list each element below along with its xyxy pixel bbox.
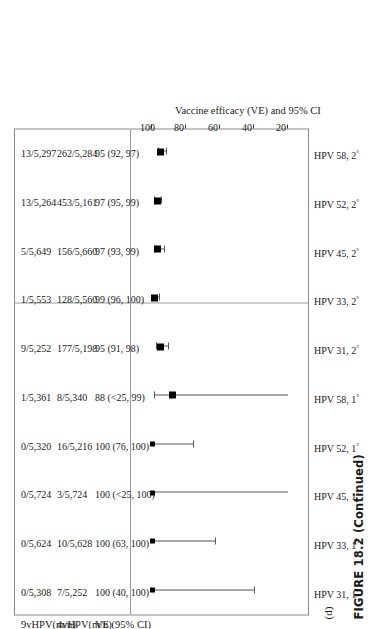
cell-9vhpv: 0/5,320 [21, 440, 51, 451]
x-axis-tick [185, 124, 186, 128]
point-estimate-marker [150, 538, 155, 543]
ci-lower-cap [161, 196, 162, 203]
confidence-interval-line [152, 589, 254, 590]
confidence-interval-line [152, 443, 193, 444]
ci-lower-cap [159, 293, 160, 300]
point-estimate-marker [169, 391, 176, 398]
study-label: HPV 33, 2° [314, 294, 359, 306]
x-axis-tick [219, 124, 220, 128]
study-label: HPV 58, 2° [314, 148, 359, 160]
cell-ve: 95 (91, 98) [95, 342, 139, 353]
study-label: HPV 52, 2° [314, 197, 359, 209]
x-axis-tick [287, 124, 288, 128]
study-label: HPV 31, 1° [314, 587, 359, 599]
point-estimate-marker [157, 148, 164, 155]
study-label: HPV 58, 1° [314, 392, 359, 404]
point-estimate-marker [157, 343, 164, 350]
cell-4vhpv: 262/5,284 [57, 147, 97, 158]
x-axis-tick-label: 100 [140, 121, 155, 132]
cell-4vhpv: 177/5,198 [57, 342, 97, 353]
cell-9vhpv: 5/5,649 [21, 245, 51, 256]
point-estimate-marker [154, 245, 161, 252]
ci-lower-cap [166, 147, 167, 154]
forest-plot-band [130, 129, 308, 614]
cell-9vhpv: 9/5,252 [21, 342, 51, 353]
x-axis-tick [253, 124, 254, 128]
cell-9vhpv: 0/5,624 [21, 537, 51, 548]
cell-9vhpv: 13/5,264 [21, 196, 56, 207]
cell-4vhpv: 8/5,340 [57, 391, 87, 402]
cell-4vhpv: 7/5,252 [57, 586, 87, 597]
cell-9vhpv: 0/5,724 [21, 488, 51, 499]
panel-letter: (d) [322, 606, 334, 619]
x-axis-tick-label: 60 [208, 121, 218, 132]
cell-ve: 100 (76, 100) [95, 440, 149, 451]
point-estimate-marker [151, 294, 158, 301]
ci-lower-cap [254, 586, 255, 593]
cell-4vhpv: 16/5,216 [57, 440, 92, 451]
study-label: HPV 31, 2° [314, 343, 359, 355]
ci-lower-cap [168, 342, 169, 349]
cell-4vhpv: 10/5,628 [57, 537, 92, 548]
study-label: HPV 33, 1° [314, 538, 359, 550]
cell-ve: 99 (96, 100) [95, 293, 144, 304]
cell-ve: 97 (93, 99) [95, 245, 139, 256]
confidence-interval-line [152, 491, 288, 492]
cell-4vhpv: 453/5,161 [57, 196, 97, 207]
cell-ve: 95 (92, 97) [95, 147, 139, 158]
ci-lower-cap [164, 245, 165, 252]
ci-lower-cap [215, 537, 216, 544]
confidence-interval-line [152, 540, 215, 541]
cell-4vhpv: 156/5,660 [57, 245, 97, 256]
cell-9vhpv: 13/5,297 [21, 147, 56, 158]
ci-lower-cap [193, 440, 194, 447]
cell-9vhpv: 1/5,361 [21, 391, 51, 402]
point-estimate-marker [150, 441, 155, 446]
header-ve: VE (95% CI) [95, 618, 151, 629]
cell-ve: 100 (<25, 100) [95, 488, 155, 499]
point-estimate-marker [154, 197, 161, 204]
x-axis-tick-label: 40 [242, 121, 252, 132]
point-estimate-marker [150, 587, 155, 592]
x-axis-tick-label: 20 [276, 121, 286, 132]
x-axis-tick-label: 80 [174, 121, 184, 132]
x-axis-title: Vaccine efficacy (VE) and 95% CI [175, 104, 321, 115]
cell-ve: 97 (95, 99) [95, 196, 139, 207]
cell-4vhpv: 128/5,560 [57, 293, 97, 304]
ci-upper-cap [154, 391, 155, 398]
cell-4vhpv: 3/5,724 [57, 488, 87, 499]
cell-ve: 88 (<25, 99) [95, 391, 145, 402]
plot-frame: 0/5,3087/5,252100 (40, 100)0/5,62410/5,6… [14, 128, 309, 615]
cell-ve: 100 (40, 100) [95, 586, 149, 597]
study-label: HPV 52, 1° [314, 441, 359, 453]
cell-9vhpv: 1/5,553 [21, 293, 51, 304]
study-label: HPV 45, 1° [314, 489, 359, 501]
cell-ve: 100 (63, 100) [95, 537, 149, 548]
cell-9vhpv: 0/5,308 [21, 586, 51, 597]
study-label: HPV 45, 2° [314, 246, 359, 258]
